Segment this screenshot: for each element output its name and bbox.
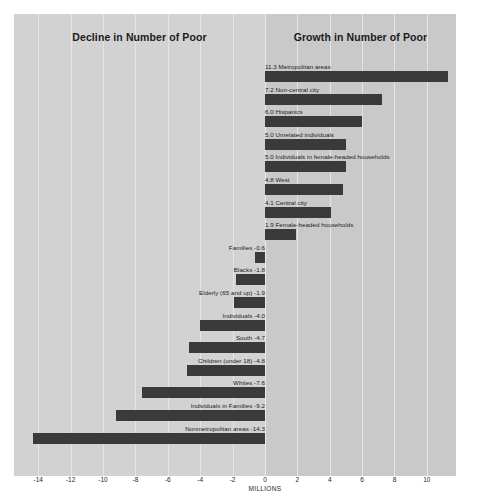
bar-rect [33, 433, 265, 444]
bar-label: 6.0 Hispanics [265, 108, 303, 116]
bar-row[interactable]: 5.0 Unrelated individuals [265, 128, 346, 150]
bar-rect [200, 320, 265, 331]
bar-rect [265, 71, 448, 82]
bar-row[interactable]: Families -0.6 [255, 241, 265, 263]
bar-row[interactable]: Blacks -1.8 [236, 263, 265, 285]
bar-rect [255, 252, 265, 263]
bar-rect [265, 139, 346, 150]
axis-tick-label: -10 [98, 476, 107, 483]
bar-row[interactable]: 5.0 Individuals in female-headed househo… [265, 150, 346, 172]
bar-row[interactable]: 6.0 Hispanics [265, 105, 362, 127]
bar-rect [265, 116, 362, 127]
x-axis: -14-12-10-8-6-4-20246810MILLIONS [14, 476, 456, 496]
axis-tick-label: -6 [165, 476, 171, 483]
bar-label: 4.8 West [265, 176, 290, 184]
bar-rect [265, 207, 331, 218]
bar-row[interactable]: Nonmetropolitan areas -14.3 [33, 422, 265, 444]
bar-label: Families -0.6 [229, 244, 265, 252]
bar-label: Children (under 18) -4.8 [198, 357, 265, 365]
bar-row[interactable]: 7.2 Non-central city [265, 83, 382, 105]
bar-label: South -4.7 [236, 334, 265, 342]
bar-row[interactable]: 1.9 Female-headed households [265, 218, 296, 240]
bar-rect [234, 297, 265, 308]
bar-rect [142, 387, 265, 398]
bar-rect [265, 184, 343, 195]
bar-row[interactable]: Individuals -4.0 [200, 309, 265, 331]
axis-tick-label: -14 [34, 476, 43, 483]
axis-tick-label: 6 [360, 476, 364, 483]
bar-label: 11.3 Metropolitan areas [265, 63, 331, 71]
axis-tick-label: 8 [393, 476, 397, 483]
bar-rect [189, 342, 265, 353]
bar-label: Individuals -4.0 [223, 312, 265, 320]
bar-row[interactable]: South -4.7 [189, 331, 265, 353]
bar-rect [265, 161, 346, 172]
axis-tick-label: 4 [328, 476, 332, 483]
bar-row[interactable]: Whites -7.6 [142, 376, 265, 398]
bar-row[interactable]: Elderly (65 and up) -1.9 [234, 286, 265, 308]
bar-label: 4.1 Central city [265, 199, 307, 207]
axis-tick-label: 0 [263, 476, 267, 483]
bar-label: 5.0 Individuals in female-headed househo… [265, 153, 390, 161]
bar-rect [265, 94, 382, 105]
bar-label: Nonmetropolitan areas -14.3 [185, 425, 265, 433]
bar-rect [265, 229, 296, 240]
bar-rect [236, 274, 265, 285]
axis-tick-label: 10 [423, 476, 430, 483]
bar-rect [187, 365, 265, 376]
bar-row[interactable]: 4.8 West [265, 173, 343, 195]
bar-label: 7.2 Non-central city [265, 86, 319, 94]
bar-row[interactable]: Children (under 18) -4.8 [187, 354, 265, 376]
bar-label: 1.9 Female-headed households [265, 221, 353, 229]
bar-rect [116, 410, 265, 421]
axis-tick-label: -12 [66, 476, 75, 483]
axis-tick-label: -4 [197, 476, 203, 483]
bar-label: Elderly (65 and up) -1.9 [199, 289, 265, 297]
bar-row[interactable]: 4.1 Central city [265, 196, 331, 218]
axis-tick-label: 2 [296, 476, 300, 483]
plot-area: Decline in Number of Poor Growth in Numb… [14, 14, 456, 476]
axis-tick-label: -2 [230, 476, 236, 483]
chart-root: Decline in Number of Poor Growth in Numb… [0, 0, 480, 496]
bars-layer: 11.3 Metropolitan areas7.2 Non-central c… [14, 14, 456, 476]
bar-label: Whites -7.6 [233, 379, 265, 387]
axis-tick-label: -8 [133, 476, 139, 483]
bar-row[interactable]: 11.3 Metropolitan areas [265, 60, 448, 82]
bar-label: Blacks -1.8 [234, 266, 265, 274]
axis-unit-label: MILLIONS [249, 485, 282, 492]
bar-label: 5.0 Unrelated individuals [265, 131, 334, 139]
bar-row[interactable]: Individuals in Families -9.2 [116, 399, 265, 421]
bar-label: Individuals in Families -9.2 [191, 402, 265, 410]
